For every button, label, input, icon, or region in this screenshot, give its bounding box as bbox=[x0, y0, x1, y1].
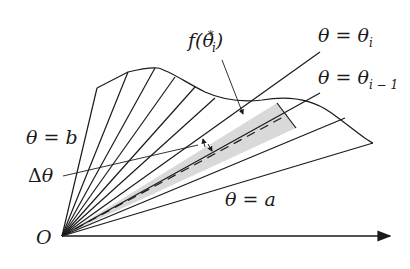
label-theta-i: θ = θi bbox=[318, 26, 373, 49]
label-theta-i-minus-1: θ = θi − 1 bbox=[318, 68, 398, 91]
label-delta-symbol: Δ bbox=[28, 164, 42, 186]
polar-area-diagram: f(θi*) θ = θi θ = θi − 1 θ = b Δθ θ = a … bbox=[0, 0, 410, 269]
label-origin-text: O bbox=[36, 226, 52, 248]
label-theta-i-minus-1-sub: i − 1 bbox=[369, 78, 398, 92]
label-theta-i-text: θ = θ bbox=[318, 24, 369, 46]
label-theta-b: θ = b bbox=[26, 128, 78, 147]
f-label-pointer bbox=[222, 60, 243, 114]
label-delta-var: θ bbox=[42, 164, 53, 186]
label-f-sup: * bbox=[208, 29, 214, 43]
label-theta-a-text: θ = a bbox=[225, 188, 276, 210]
ray bbox=[62, 87, 195, 236]
label-theta-a: θ = a bbox=[225, 190, 276, 209]
ray-theta-i-minus-1 bbox=[62, 93, 320, 236]
label-theta-i-minus-1-text: θ = θ bbox=[318, 66, 369, 88]
label-f-close: ) bbox=[216, 29, 223, 51]
label-theta-i-sub: i bbox=[369, 36, 373, 50]
label-delta-theta: Δθ bbox=[28, 166, 53, 185]
delta-theta-arrow-up bbox=[203, 139, 205, 147]
label-theta-b-text: θ = b bbox=[26, 126, 78, 148]
label-f-theta-i-star: f(θi*) bbox=[188, 30, 231, 54]
label-origin: O bbox=[36, 228, 52, 247]
